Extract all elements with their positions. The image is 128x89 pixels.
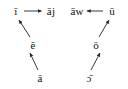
node-label-aj: āj (47, 6, 55, 17)
node-label-i: ī (14, 6, 17, 17)
arrow-a-to-e (30, 53, 38, 70)
arrow-o-to-u (99, 20, 109, 37)
arrow-e-to-i (19, 20, 30, 37)
arrow-openo-to-o (91, 53, 100, 70)
node-label-e: ē (30, 40, 35, 51)
vowel-shift-diagram: ī āj āw ū ē ō ā ɔ̄ (0, 0, 128, 89)
node-label-u: ū (109, 6, 115, 17)
node-label-o: ō (93, 40, 99, 51)
node-label-a-long: ā (37, 73, 42, 84)
node-label-aw: āw (70, 6, 83, 17)
node-label-open-o-long: ɔ̄ (86, 73, 91, 84)
